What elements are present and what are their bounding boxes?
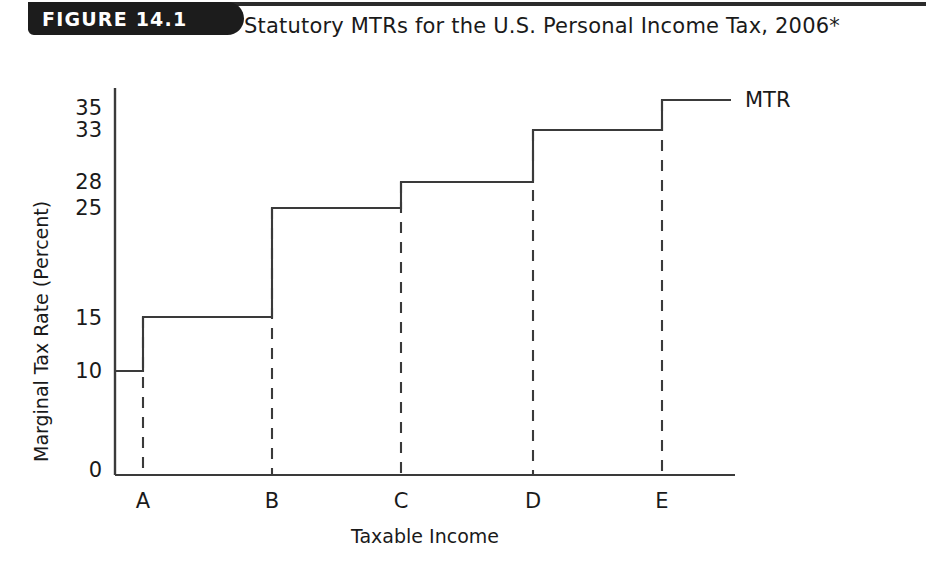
mtr-step-line: [115, 100, 731, 371]
x-tick-label-e: E: [637, 489, 687, 513]
x-tick-label-a: A: [118, 489, 168, 513]
figure-number-tab: FIGURE 14.1: [28, 2, 244, 35]
series-label-mtr: MTR: [745, 88, 791, 112]
x-tick-label-b: B: [247, 489, 297, 513]
x-tick-label-c: C: [376, 489, 426, 513]
figure-title: Statutory MTRs for the U.S. Personal Inc…: [244, 14, 840, 38]
x-axis-title: Taxable Income: [300, 525, 550, 547]
x-tick-label-d: D: [508, 489, 558, 513]
figure-header: FIGURE 14.1 Statutory MTRs for the U.S. …: [0, 0, 926, 52]
chart-area: Marginal Tax Rate (Percent) 35 33 28 25 …: [0, 52, 926, 579]
figure-number-label: FIGURE 14.1: [42, 8, 187, 30]
